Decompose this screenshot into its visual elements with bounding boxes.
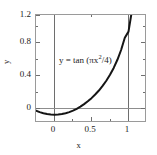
ytick-inner-0_4: [36, 75, 40, 76]
ytick-inner-minor-0_6: [36, 59, 38, 60]
xtick-inner-0_5: [91, 117, 92, 121]
equation-annotation: y = tan (πx2/4): [59, 55, 112, 66]
xticklabel-0: 0: [38, 124, 68, 134]
ytick-inner-minor-1_0: [36, 26, 38, 27]
xticklabel-0_5: 0.5: [75, 124, 105, 134]
ytick-inner-right-0: [141, 108, 145, 109]
ytick-inner-0_8: [36, 42, 40, 43]
xtick-inner-minor-0_25: [72, 119, 73, 121]
xtick-inner-1: [128, 117, 129, 121]
chart-title: [0, 0, 1, 1]
ytick-inner-right-minor-1_0: [143, 26, 145, 27]
yticklabel-1_2: 1.2: [5, 9, 31, 19]
plot-area: y = tan (πx2/4): [35, 14, 146, 122]
yticklabel-0_4: 0.4: [5, 69, 31, 79]
ytick-inner-0: [36, 108, 40, 109]
ytick-inner-right-0_8: [141, 42, 145, 43]
ytick-inner-minor-0_2: [36, 92, 38, 93]
xtick-inner-top-0: [54, 15, 55, 19]
figure: y = tan (πx2/4) 0 0.5 1 0 0.4 0.8 1.2 x …: [0, 0, 157, 155]
xticklabel-1: 1: [112, 124, 142, 134]
ytick-inner-right-minor-0_6: [143, 59, 145, 60]
ytick-inner-1_2: [36, 15, 40, 16]
yticklabel-0_8: 0.8: [5, 36, 31, 46]
ytick-inner-right-minor-0_2: [143, 92, 145, 93]
x-axis-label: x: [0, 140, 157, 150]
equation-suffix: /4): [102, 55, 112, 65]
data-series-curve: [36, 15, 146, 122]
yticklabel-0: 0: [5, 102, 31, 112]
xtick-inner-top-0_5: [91, 15, 92, 17]
ytick-inner-right-0_4: [141, 75, 145, 76]
xtick-inner-0: [54, 117, 55, 121]
xtick-inner-minor-0_75: [110, 119, 111, 121]
equation-prefix: y = tan (πx: [59, 55, 98, 65]
y-axis-label: y: [1, 60, 11, 64]
